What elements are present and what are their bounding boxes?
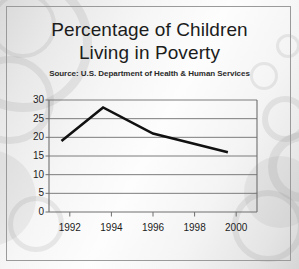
x-axis-tick-label: 1996 bbox=[133, 222, 173, 234]
x-axis-tick-label: 1994 bbox=[91, 222, 131, 234]
y-axis-tick-label: 0 bbox=[20, 207, 44, 217]
data-line-series-1 bbox=[61, 107, 227, 152]
y-axis-tick-label: 5 bbox=[20, 188, 44, 198]
plot-area: 051015202530 19921994199619982000 bbox=[0, 0, 299, 269]
gridlines bbox=[49, 100, 257, 212]
chart-figure: Percentage of Children Living in Poverty… bbox=[0, 0, 299, 269]
y-axis-labels: 051015202530 bbox=[20, 96, 44, 212]
x-axis-tick-label: 1998 bbox=[175, 222, 215, 234]
y-axis-tick-label: 30 bbox=[20, 95, 44, 105]
y-axis-tick-label: 15 bbox=[20, 151, 44, 161]
y-axis-tick-label: 20 bbox=[20, 132, 44, 142]
x-axis-tick-label: 1992 bbox=[50, 222, 90, 234]
y-axis-tick-label: 10 bbox=[20, 170, 44, 180]
y-axis-tick-label: 25 bbox=[20, 114, 44, 124]
x-axis-tick-label: 2000 bbox=[216, 222, 256, 234]
x-axis-labels: 19921994199619982000 bbox=[0, 222, 299, 236]
axis-ticks bbox=[46, 100, 237, 217]
